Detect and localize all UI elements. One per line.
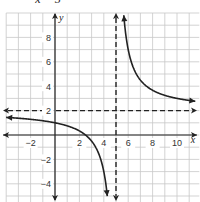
rational-function-graph: x = 5yx−22468108642−2−4 <box>0 0 200 202</box>
y-tick-label: 6 <box>46 57 51 67</box>
grid <box>6 13 199 202</box>
y-axis-label: y <box>58 12 64 23</box>
x-tick-label: 8 <box>150 138 155 148</box>
x-tick-label: 6 <box>126 138 131 148</box>
labels: x = 5yx−22468108642−2−4 <box>24 0 196 189</box>
y-tick-label: −2 <box>41 155 51 165</box>
x-tick-label: 2 <box>77 138 82 148</box>
title: x = 5 <box>34 0 60 6</box>
y-tick-label: 2 <box>46 106 51 116</box>
curve-arrow <box>121 15 127 21</box>
x-tick-label: 4 <box>101 138 106 148</box>
x-tick-label: −2 <box>25 138 35 148</box>
y-tick-label: 4 <box>46 82 51 92</box>
x-tick-label: 10 <box>172 138 182 148</box>
curves <box>6 15 195 196</box>
axes <box>3 13 197 201</box>
curve-arrow <box>6 115 12 121</box>
y-tick-label: 8 <box>46 33 51 43</box>
curve-left-branch <box>6 117 107 196</box>
curve-right-branch <box>124 15 196 101</box>
x-axis-label: x <box>190 134 196 145</box>
asymptotes <box>3 13 197 201</box>
y-tick-label: −4 <box>41 179 51 189</box>
